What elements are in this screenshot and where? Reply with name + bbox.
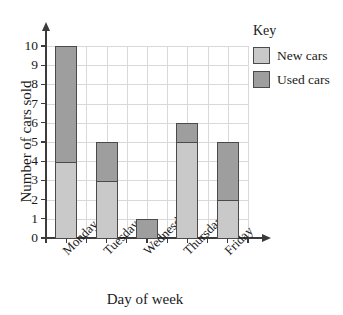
x-axis-tick xyxy=(45,238,46,243)
y-axis-arrow-icon xyxy=(42,22,50,31)
bar-segment-thursday-new-cars xyxy=(176,142,198,239)
grid-line-vertical xyxy=(208,46,209,238)
bar-segment-wednesday-used-cars xyxy=(136,219,158,240)
legend: Key New cars Used cars xyxy=(253,24,343,95)
x-axis-arrow-icon xyxy=(262,234,271,242)
bar-segment-tuesday-new-cars xyxy=(96,180,118,239)
y-axis-tick xyxy=(41,65,46,66)
legend-swatch-new-cars xyxy=(253,47,270,64)
y-axis-title: Number of cars sold xyxy=(19,54,34,230)
bar-segment-friday-new-cars xyxy=(217,200,239,240)
bar-segment-monday-new-cars xyxy=(55,161,77,239)
y-axis-tick-label: 0 xyxy=(0,231,38,245)
y-axis-tick xyxy=(41,161,46,162)
grid-line-vertical xyxy=(167,46,168,238)
bar-chart: 012345678910 MondayTuesdayWednesdayThurs… xyxy=(0,0,343,315)
legend-label-new-cars: New cars xyxy=(277,49,328,63)
bar-segment-thursday-used-cars xyxy=(176,123,198,144)
y-axis-tick xyxy=(41,122,46,123)
y-axis-tick xyxy=(41,180,46,181)
bar-segment-tuesday-used-cars xyxy=(96,142,118,182)
grid-line-vertical xyxy=(147,46,148,238)
y-axis-tick xyxy=(41,84,46,85)
y-axis-tick xyxy=(41,103,46,104)
legend-title: Key xyxy=(253,24,343,38)
bar-segment-friday-used-cars xyxy=(217,142,239,201)
y-axis-tick xyxy=(41,218,46,219)
grid-line-vertical xyxy=(86,46,87,238)
y-axis-line xyxy=(45,30,47,239)
legend-swatch-used-cars xyxy=(253,71,270,88)
grid-line-vertical xyxy=(248,46,249,238)
y-axis-tick xyxy=(41,199,46,200)
legend-label-used-cars: Used cars xyxy=(277,73,330,87)
legend-item-new-cars[interactable]: New cars xyxy=(253,47,343,64)
grid-line-vertical xyxy=(127,46,128,238)
x-axis-title: Day of week xyxy=(0,292,290,307)
legend-item-used-cars[interactable]: Used cars xyxy=(253,71,343,88)
y-axis-tick xyxy=(41,141,46,142)
y-axis-tick-label: 10 xyxy=(0,39,38,53)
bar-segment-monday-used-cars xyxy=(55,46,77,163)
y-axis-tick xyxy=(41,45,46,46)
